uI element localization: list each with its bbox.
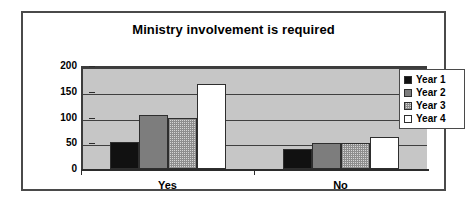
- x-axis-divider: [254, 169, 255, 175]
- legend-swatch-icon: [404, 102, 412, 110]
- bar-yes-year-2: [139, 115, 168, 169]
- bar-yes-year-4: [197, 84, 226, 169]
- y-axis-tick: [89, 143, 95, 144]
- legend-label: Year 3: [416, 100, 445, 111]
- y-axis-tick: [89, 118, 95, 119]
- legend-item: Year 2: [404, 86, 460, 99]
- bar-no-year-1: [283, 149, 312, 169]
- x-axis-line: [81, 169, 429, 171]
- x-axis-category-label: No: [296, 179, 386, 191]
- bar-yes-year-3: [168, 118, 197, 170]
- x-axis-divider: [81, 169, 82, 175]
- bar-no-year-2: [312, 143, 341, 169]
- legend-item: Year 4: [404, 112, 460, 125]
- gridline: [83, 94, 427, 95]
- legend-swatch-icon: [404, 89, 412, 97]
- gridline: [83, 68, 427, 69]
- y-axis: 050100150200: [37, 13, 77, 206]
- bar-yes-year-1: [110, 142, 139, 169]
- bar-no-year-3: [341, 143, 370, 169]
- y-axis-tick-label: 150: [43, 87, 77, 97]
- y-axis-tick-label: 50: [43, 138, 77, 148]
- y-axis-tick: [89, 92, 95, 93]
- legend-item: Year 1: [404, 73, 460, 86]
- y-axis-tick-label: 200: [43, 61, 77, 71]
- y-axis-tick-label: 0: [43, 164, 77, 174]
- gridline: [83, 120, 427, 121]
- y-axis-tick-label: 100: [43, 113, 77, 123]
- bar-no-year-4: [370, 137, 399, 169]
- x-axis-category-label: Yes: [123, 179, 213, 191]
- y-axis-tick: [89, 169, 95, 170]
- legend-label: Year 1: [416, 74, 445, 85]
- chart-legend: Year 1Year 2Year 3Year 4: [399, 69, 465, 129]
- legend-swatch-icon: [404, 115, 412, 123]
- legend-swatch-icon: [404, 76, 412, 84]
- legend-label: Year 2: [416, 87, 445, 98]
- chart-frame: Ministry involvement is required 0501001…: [21, 11, 446, 191]
- legend-label: Year 4: [416, 113, 445, 124]
- chart-title: Ministry involvement is required: [23, 22, 444, 37]
- legend-item: Year 3: [404, 99, 460, 112]
- y-axis-tick: [89, 66, 95, 67]
